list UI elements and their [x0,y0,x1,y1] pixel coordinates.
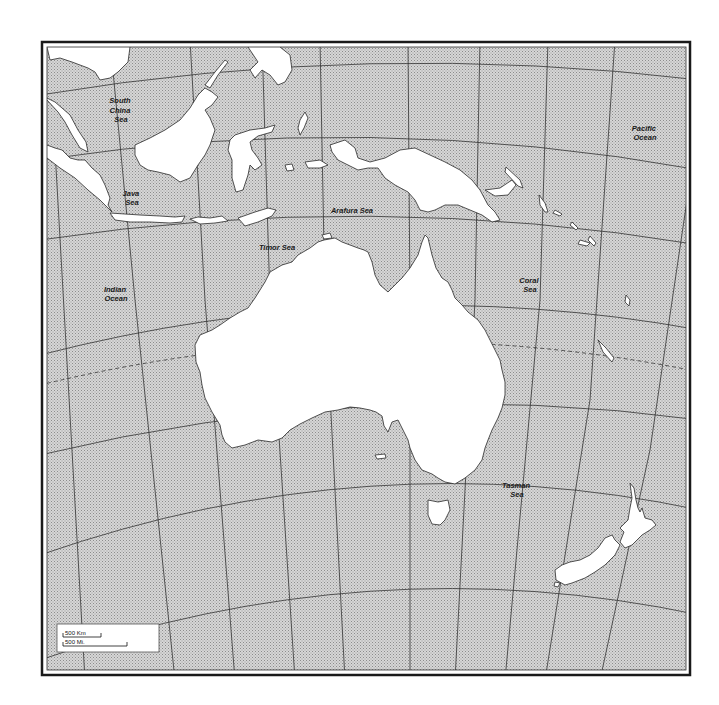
label-indian-ocean: Indian Ocean [104,285,128,303]
map-canvas: 500 Km 500 Mi. South China Sea Java Sea … [0,0,719,705]
scale-bar: 500 Km 500 Mi. [57,624,159,652]
label-java-sea: Java Sea [123,189,142,207]
scale-km-label: 500 Km [65,630,86,636]
outline-map: 500 Km 500 Mi. South China Sea Java Sea … [0,0,719,705]
label-pacific-ocean: Pacific Ocean [632,124,658,142]
land-kangaroo-island [375,454,386,459]
land-buru [285,164,294,171]
label-timor-sea: Timor Sea [259,243,295,252]
scale-mi-label: 500 Mi. [65,639,85,645]
label-arafura-sea: Arafura Sea [330,206,373,215]
